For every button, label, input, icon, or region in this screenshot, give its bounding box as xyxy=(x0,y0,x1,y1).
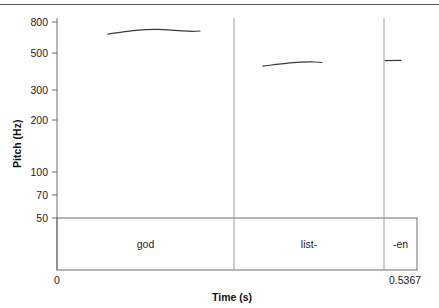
y-tick-label-800: 800 xyxy=(18,17,48,28)
segment-boundary-lines xyxy=(234,18,384,270)
y-tick-label-70: 70 xyxy=(18,190,48,201)
segment-label-list: list- xyxy=(234,239,384,250)
y-tick-label-100: 100 xyxy=(18,167,48,178)
y-tick-label-500: 500 xyxy=(18,48,48,59)
segment-label-en: -en xyxy=(384,239,417,250)
pitch-contour-god xyxy=(108,29,200,34)
plot-canvas xyxy=(0,0,439,308)
pitch-contour-figure: 800 500 300 200 100 70 50 Pitch (Hz) god… xyxy=(0,0,439,308)
y-axis-title: Pitch (Hz) xyxy=(12,120,23,168)
y-tick-label-300: 300 xyxy=(18,85,48,96)
y-tick-label-50: 50 xyxy=(18,213,48,224)
x-axis-title: Time (s) xyxy=(212,292,252,303)
y-axis-ticks xyxy=(52,22,57,218)
x-tick-label-start: 0 xyxy=(54,275,60,286)
x-tick-label-end: 0.5367 xyxy=(389,275,421,286)
segment-label-god: god xyxy=(57,239,234,250)
pitch-contour-list xyxy=(263,62,322,66)
